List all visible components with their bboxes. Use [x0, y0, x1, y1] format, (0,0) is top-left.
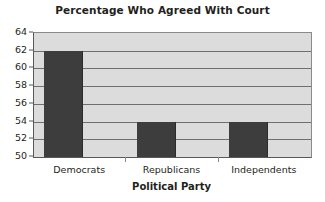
x-axis-tick-mark [218, 157, 219, 162]
bar-chart-figure: Percentage Who Agreed With Court 6462605… [0, 0, 325, 202]
y-axis-tick-label: 62 [15, 45, 27, 55]
x-axis-category-labels: DemocratsRepublicansIndependents [33, 163, 310, 177]
x-axis-category-label: Democrats [53, 163, 105, 177]
chart-title: Percentage Who Agreed With Court [0, 4, 325, 16]
y-axis-tick-label: 64 [15, 27, 27, 37]
y-axis-tick-label: 52 [15, 134, 27, 144]
y-axis-tick-label: 54 [15, 116, 27, 126]
x-axis-category-label: Independents [231, 163, 296, 177]
y-axis-tick-label: 58 [15, 80, 27, 90]
plot-area [33, 32, 312, 158]
y-axis-tick-label: 50 [15, 151, 27, 161]
y-axis: 6462605856545250 [0, 32, 33, 156]
y-axis-tick-label: 60 [15, 63, 27, 73]
y-axis-tick-label: 56 [15, 98, 27, 108]
x-axis-category-label: Republicans [143, 163, 200, 177]
bar [229, 122, 268, 157]
bars-layer [34, 33, 311, 157]
x-axis-title: Political Party [33, 181, 310, 192]
bar [44, 51, 83, 157]
x-axis-tick-mark [125, 157, 126, 162]
bar [137, 122, 176, 157]
